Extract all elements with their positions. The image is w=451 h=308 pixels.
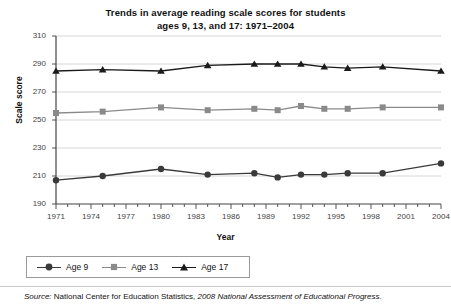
y-axis-tick-label: 270 bbox=[20, 88, 46, 96]
source-prefix: Source: bbox=[24, 292, 52, 301]
source-divider bbox=[0, 286, 451, 287]
source-note: Source: National Center for Education St… bbox=[24, 292, 382, 301]
data-point-square bbox=[53, 110, 59, 116]
x-axis-tick-label: 1971 bbox=[39, 213, 73, 221]
data-point-square bbox=[251, 106, 257, 112]
legend-item-age-9: Age 9 bbox=[37, 262, 88, 272]
y-axis-tick-label: 310 bbox=[20, 32, 46, 40]
x-axis-tick-label: 1998 bbox=[354, 213, 388, 221]
source-report: 2008 National Assessment of Educational … bbox=[197, 292, 381, 301]
y-axis-tick-label: 250 bbox=[20, 116, 46, 124]
chart-legend: Age 9 Age 13 Age 17 bbox=[26, 256, 250, 278]
x-axis-tick-label: 1992 bbox=[284, 213, 318, 221]
data-point-square bbox=[275, 107, 281, 113]
data-point-circle bbox=[274, 174, 280, 180]
x-axis-tick-label: 1986 bbox=[214, 213, 248, 221]
data-point-square bbox=[345, 106, 351, 112]
x-axis-tick-label: 1995 bbox=[319, 213, 353, 221]
data-point-square bbox=[438, 104, 444, 110]
x-axis-tick-label: 1977 bbox=[109, 213, 143, 221]
triangle-marker-icon bbox=[179, 262, 189, 272]
legend-line-age-13 bbox=[102, 262, 126, 272]
y-axis-tick-label: 190 bbox=[20, 200, 46, 208]
y-axis-label: Scale score bbox=[14, 65, 24, 135]
data-point-circle bbox=[379, 170, 385, 176]
x-axis-tick-label: 1980 bbox=[144, 213, 178, 221]
data-point-circle bbox=[99, 173, 105, 179]
data-point-circle bbox=[204, 171, 210, 177]
data-point-square bbox=[298, 103, 304, 109]
square-marker-icon bbox=[109, 262, 119, 272]
x-axis-tick-label: 1974 bbox=[74, 213, 108, 221]
data-point-square bbox=[100, 109, 106, 115]
data-point-circle bbox=[251, 170, 257, 176]
circle-marker-icon bbox=[44, 262, 54, 272]
data-point-circle bbox=[438, 160, 444, 166]
data-point-square bbox=[205, 107, 211, 113]
legend-item-age-17: Age 17 bbox=[172, 262, 228, 272]
legend-line-age-17 bbox=[172, 262, 196, 272]
plot-area: Scale score Year 19021023025027029031019… bbox=[0, 0, 451, 250]
data-point-circle bbox=[158, 166, 164, 172]
y-axis-tick-label: 230 bbox=[20, 144, 46, 152]
data-point-square bbox=[158, 104, 164, 110]
x-axis-tick-label: 2004 bbox=[424, 213, 451, 221]
legend-label-age-13: Age 13 bbox=[131, 262, 158, 272]
x-axis-tick-label: 1983 bbox=[179, 213, 213, 221]
chart-figure: Trends in average reading scale scores f… bbox=[0, 0, 451, 308]
data-point-circle bbox=[321, 171, 327, 177]
y-axis-tick-label: 210 bbox=[20, 172, 46, 180]
data-point-circle bbox=[53, 177, 59, 183]
y-axis-tick-label: 290 bbox=[20, 60, 46, 68]
x-axis-tick-label: 2001 bbox=[389, 213, 423, 221]
legend-line-age-9 bbox=[37, 262, 61, 272]
source-agency: National Center for Education Statistics… bbox=[54, 292, 195, 301]
x-axis-label: Year bbox=[0, 232, 451, 242]
data-point-circle bbox=[344, 170, 350, 176]
legend-item-age-13: Age 13 bbox=[102, 262, 158, 272]
legend-label-age-17: Age 17 bbox=[201, 262, 228, 272]
x-axis-tick-label: 1989 bbox=[249, 213, 283, 221]
legend-label-age-9: Age 9 bbox=[66, 262, 88, 272]
data-point-square bbox=[380, 104, 386, 110]
data-point-square bbox=[321, 106, 327, 112]
data-point-circle bbox=[298, 171, 304, 177]
